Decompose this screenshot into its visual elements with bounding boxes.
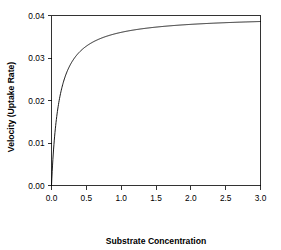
x-tick-label: 2.5 bbox=[220, 193, 232, 203]
x-tick-label: 1.0 bbox=[115, 193, 127, 203]
y-axis-title: Velocity (Uptake Rate) bbox=[6, 62, 16, 152]
x-tick-label: 3.0 bbox=[255, 193, 267, 203]
x-axis-title: Substrate Concentration bbox=[106, 236, 206, 246]
chart-figure: 0.000.010.020.030.04 0.00.51.01.52.02.53… bbox=[0, 0, 281, 250]
y-tick-label: 0.03 bbox=[28, 53, 45, 63]
x-tick-label: 0.5 bbox=[81, 193, 93, 203]
y-tick-label: 0.00 bbox=[28, 181, 45, 191]
plot-background bbox=[0, 0, 281, 250]
y-tick-label: 0.01 bbox=[28, 138, 45, 148]
x-tick-label: 0.0 bbox=[46, 193, 58, 203]
y-tick-label: 0.02 bbox=[28, 96, 45, 106]
michaelis-menten-plot: 0.000.010.020.030.04 0.00.51.01.52.02.53… bbox=[0, 0, 281, 250]
x-tick-label: 1.5 bbox=[150, 193, 162, 203]
y-tick-label: 0.04 bbox=[28, 11, 45, 21]
x-tick-label: 2.0 bbox=[185, 193, 197, 203]
